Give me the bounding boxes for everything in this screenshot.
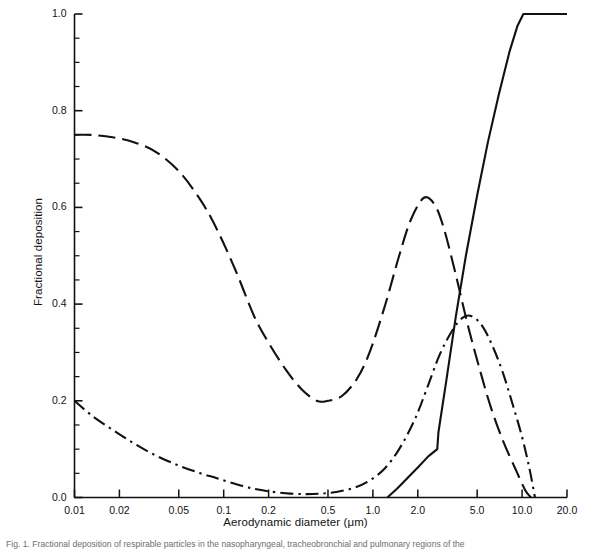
deposition-plot bbox=[0, 0, 591, 551]
x-axis-title: Aerodynamic diameter (μm) bbox=[0, 516, 591, 528]
y-tick-label: 1.0 bbox=[27, 7, 67, 19]
axis-lines bbox=[74, 14, 567, 498]
y-tick-label: 0.8 bbox=[27, 104, 67, 116]
x-tick-label: 2.0 bbox=[388, 504, 448, 516]
y-tick-label: 0.2 bbox=[27, 394, 67, 406]
data-series-group bbox=[75, 14, 568, 498]
figure-caption: Fig. 1. Fractional deposition of respira… bbox=[6, 539, 591, 551]
series-line-tracheobronchial bbox=[75, 315, 535, 497]
x-tick-label: 20.0 bbox=[537, 504, 591, 516]
figure-container: 0.00.20.40.60.81.0 0.010.020.050.10.20.5… bbox=[0, 0, 591, 551]
x-tick-marks bbox=[75, 490, 568, 498]
x-tick-label: 0.2 bbox=[239, 504, 299, 516]
series-line-nasopharyngeal bbox=[387, 14, 567, 498]
y-axis-title: Fractional deposition bbox=[32, 152, 44, 352]
y-tick-marks bbox=[75, 14, 83, 498]
x-tick-label: 0.02 bbox=[89, 504, 149, 516]
series-line-pulmonary bbox=[75, 135, 532, 498]
y-tick-label: 0.0 bbox=[27, 491, 67, 503]
